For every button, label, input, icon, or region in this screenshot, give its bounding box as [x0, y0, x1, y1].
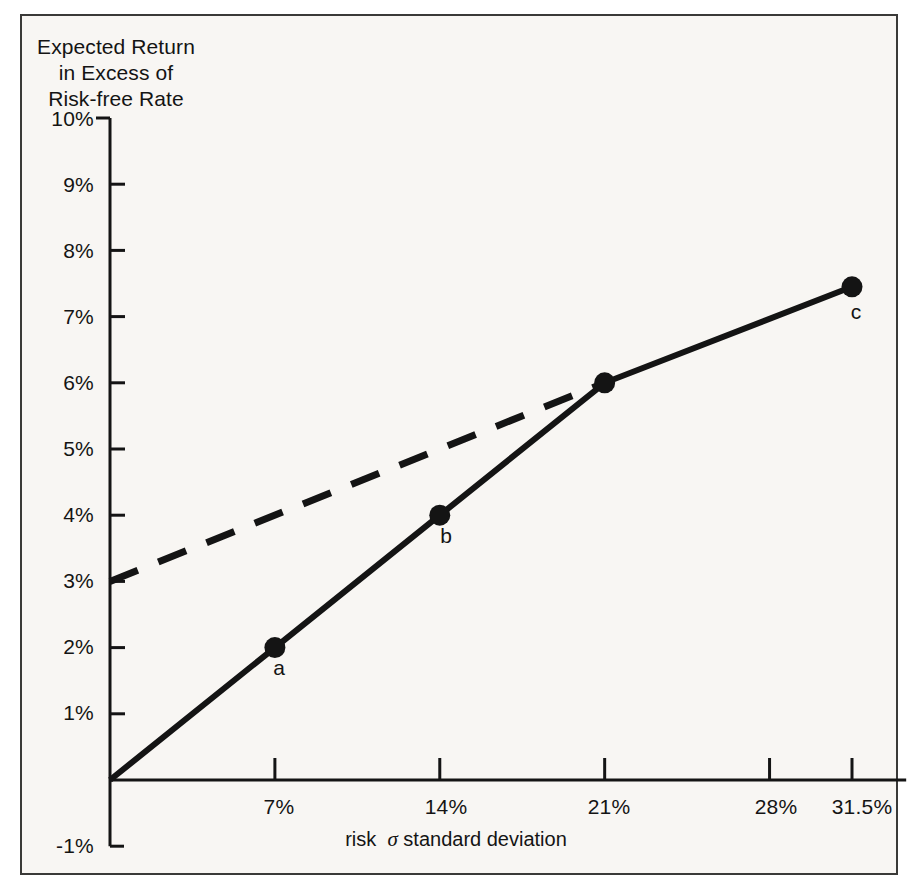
data-point-0-3	[594, 372, 615, 393]
series-line-1	[110, 383, 605, 582]
chart-figure: Expected Return in Excess of Risk-free R…	[0, 0, 912, 891]
data-point-a	[264, 637, 285, 658]
markers-layer	[264, 276, 862, 658]
plot-canvas	[0, 0, 912, 891]
axes-layer	[96, 118, 906, 846]
data-point-b	[429, 505, 450, 526]
data-point-c	[842, 276, 863, 297]
series-layer	[110, 287, 852, 780]
